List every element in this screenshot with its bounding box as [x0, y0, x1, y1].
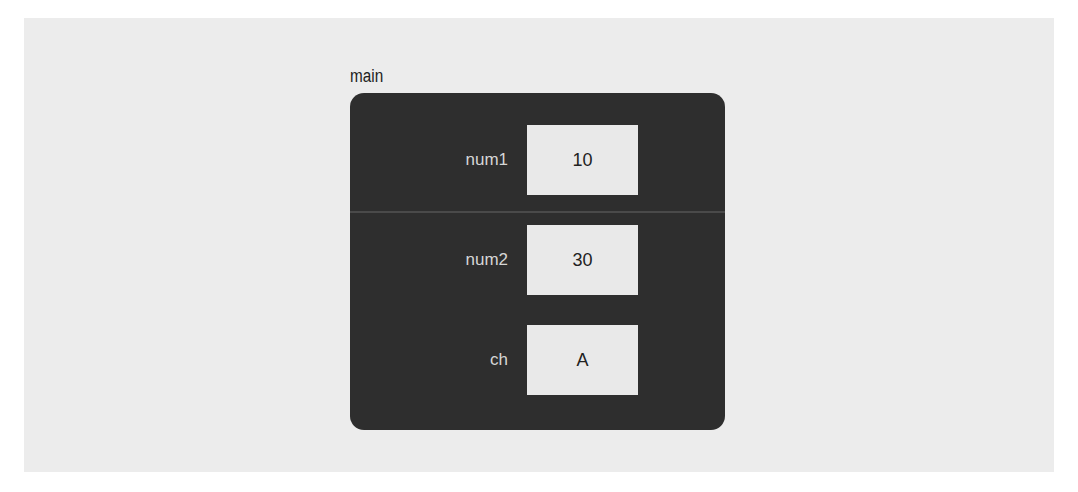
variable-value-num1: 10 [527, 125, 638, 195]
variable-value-num2: 30 [527, 225, 638, 295]
variable-label-ch: ch [388, 350, 508, 370]
variable-label-num1: num1 [388, 150, 508, 170]
variable-value-text: 10 [572, 150, 592, 171]
variable-label-num2: num2 [388, 250, 508, 270]
variable-value-text: A [576, 350, 588, 371]
variable-value-ch: A [527, 325, 638, 395]
variable-value-text: 30 [572, 250, 592, 271]
stack-frame-label: main [350, 66, 383, 87]
frame-divider [350, 211, 725, 213]
